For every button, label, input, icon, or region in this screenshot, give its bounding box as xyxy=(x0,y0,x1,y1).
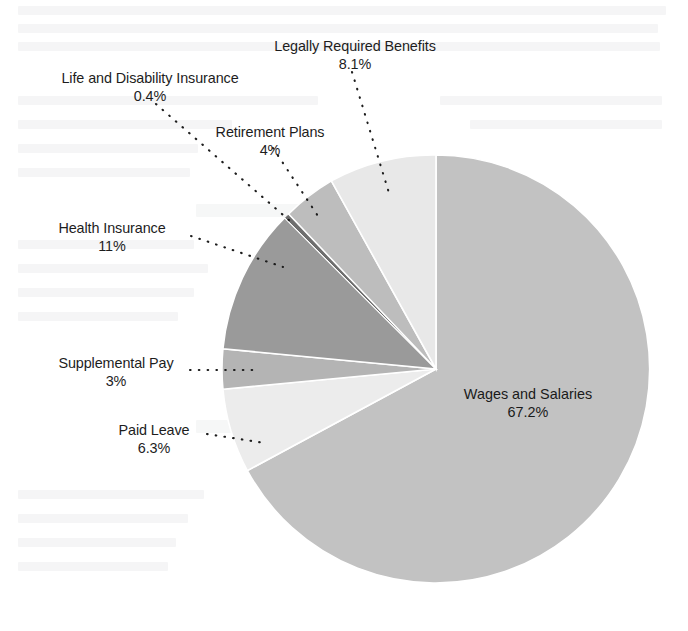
label-retirement-plans-name: Retirement Plans xyxy=(202,124,338,142)
label-wages-and-salaries-value: 67.2% xyxy=(438,403,618,421)
label-life-and-disability-insurance-value: 0.4% xyxy=(28,88,272,106)
pie-slices xyxy=(222,155,650,583)
label-life-and-disability-insurance: Life and Disability Insurance 0.4% xyxy=(28,70,272,105)
label-legally-required-benefits: Legally Required Benefits 8.1% xyxy=(255,38,455,73)
label-supplemental-pay-value: 3% xyxy=(44,373,188,391)
label-supplemental-pay: Supplemental Pay 3% xyxy=(44,355,188,390)
label-life-and-disability-insurance-name: Life and Disability Insurance xyxy=(28,70,272,88)
label-paid-leave-name: Paid Leave xyxy=(104,422,204,440)
label-wages-and-salaries: Wages and Salaries 67.2% xyxy=(438,385,618,421)
label-health-insurance: Health Insurance 11% xyxy=(40,220,184,255)
label-legally-required-benefits-value: 8.1% xyxy=(255,56,455,74)
label-paid-leave-value: 6.3% xyxy=(104,440,204,458)
label-health-insurance-value: 11% xyxy=(40,238,184,256)
label-retirement-plans-value: 4% xyxy=(202,142,338,160)
label-retirement-plans: Retirement Plans 4% xyxy=(202,124,338,159)
label-health-insurance-name: Health Insurance xyxy=(40,220,184,238)
label-supplemental-pay-name: Supplemental Pay xyxy=(44,355,188,373)
label-legally-required-benefits-name: Legally Required Benefits xyxy=(255,38,455,56)
label-paid-leave: Paid Leave 6.3% xyxy=(104,422,204,457)
pie-chart-figure: Legally Required Benefits 8.1% Life and … xyxy=(0,0,688,631)
label-wages-and-salaries-name: Wages and Salaries xyxy=(438,385,618,403)
leader-line-life-and-disability-insurance xyxy=(156,104,290,221)
